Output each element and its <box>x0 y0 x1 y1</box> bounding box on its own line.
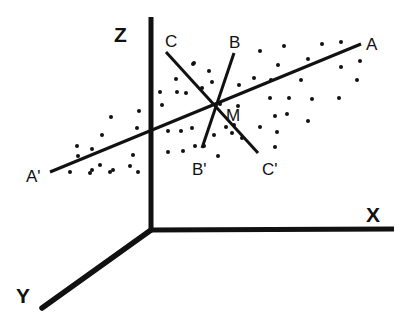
data-point <box>190 126 194 130</box>
data-point <box>90 147 94 151</box>
data-point <box>136 170 140 174</box>
data-point <box>252 76 256 80</box>
pca-axes-diagram: Z X Y A' A B' B C C' M <box>0 0 410 321</box>
data-point <box>98 163 102 167</box>
data-point <box>179 129 183 133</box>
z-axis-label: Z <box>114 23 127 46</box>
data-point <box>287 96 291 100</box>
data-point <box>88 171 92 175</box>
point-label-a: A <box>366 35 378 54</box>
point-label-c-prime: C' <box>262 160 278 179</box>
data-point <box>268 96 272 100</box>
data-point <box>320 42 324 46</box>
data-point <box>337 96 341 100</box>
data-point <box>306 119 310 123</box>
data-point <box>68 170 72 174</box>
data-point <box>191 62 195 66</box>
data-point <box>137 109 141 113</box>
data-point <box>166 150 170 154</box>
data-point <box>128 164 132 168</box>
data-point <box>306 57 310 61</box>
data-point <box>108 170 112 174</box>
data-point <box>160 103 164 107</box>
data-point <box>310 97 314 101</box>
data-point <box>355 78 359 82</box>
principal-axis-cc <box>166 52 258 153</box>
data-point <box>75 144 79 148</box>
data-point <box>174 77 178 81</box>
data-point <box>76 154 80 158</box>
point-label-a-prime: A' <box>26 167 41 186</box>
data-point <box>358 59 362 63</box>
principal-axis-aa <box>50 44 361 172</box>
point-label-c: C <box>165 32 177 51</box>
data-point <box>273 114 277 118</box>
data-point <box>181 149 185 153</box>
data-point <box>285 112 289 116</box>
data-point <box>258 125 262 129</box>
data-point <box>276 63 280 67</box>
data-point <box>135 126 139 130</box>
data-point <box>224 125 228 129</box>
x-axis <box>149 229 394 230</box>
data-point <box>216 154 220 158</box>
data-point <box>158 90 162 94</box>
principal-axis-bb <box>202 53 234 148</box>
data-point <box>207 69 211 73</box>
y-axis-label: Y <box>16 284 30 307</box>
data-point <box>109 115 113 119</box>
point-label-b: B <box>229 33 240 52</box>
data-point <box>275 130 279 134</box>
data-point <box>175 90 179 94</box>
data-point <box>131 153 135 157</box>
data-point <box>273 145 277 149</box>
data-point <box>184 91 188 95</box>
data-point <box>230 131 234 135</box>
data-point <box>339 40 343 44</box>
data-point <box>237 83 241 87</box>
data-point <box>258 49 262 53</box>
data-point <box>212 133 216 137</box>
data-point <box>100 133 104 137</box>
data-point <box>166 129 170 133</box>
y-axis <box>42 230 151 308</box>
point-label-b-prime: B' <box>192 160 207 179</box>
data-point <box>193 144 197 148</box>
data-point <box>210 80 214 84</box>
data-point <box>282 44 286 48</box>
data-point <box>299 78 303 82</box>
data-point <box>339 65 343 69</box>
center-label-m: M <box>226 106 240 125</box>
x-axis-label: X <box>366 203 380 226</box>
